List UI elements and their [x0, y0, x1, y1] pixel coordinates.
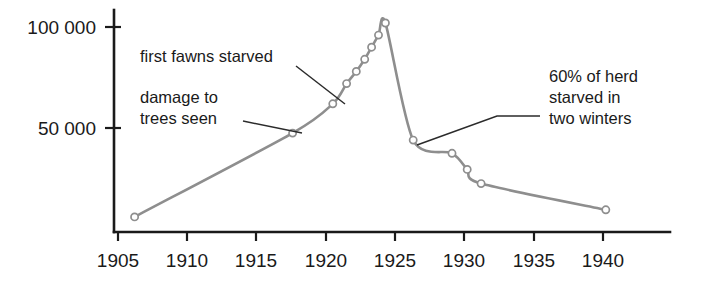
y-tick-label-50000: 50 000 — [38, 118, 96, 139]
data-point-marker — [131, 213, 138, 220]
annotation-sixty-percent-of-herd: 60% of herd starved in two winters — [549, 67, 638, 127]
chart-canvas: 100 000 50 000 1905 1910 1915 1920 1925 … — [0, 0, 702, 286]
annotation-text-herd-line3: two winters — [549, 109, 632, 127]
data-point-marker — [410, 137, 417, 144]
x-tick-label-1915: 1915 — [235, 250, 277, 271]
leader-line-first-fawns — [296, 66, 345, 104]
annotation-text-damage-line1: damage to — [140, 88, 218, 106]
x-tick-label-1930: 1930 — [443, 250, 485, 271]
y-tick-label-100000: 100 000 — [27, 17, 96, 38]
x-tick-label-1920: 1920 — [305, 250, 347, 271]
x-tick-label-1940: 1940 — [582, 250, 624, 271]
data-point-marker — [343, 80, 350, 87]
annotation-damage-to-trees-seen: damage to trees seen — [140, 88, 218, 127]
data-point-marker — [464, 166, 471, 173]
x-tick-label-1905: 1905 — [97, 250, 139, 271]
x-tick-label-1935: 1935 — [513, 250, 555, 271]
data-point-marker — [602, 206, 609, 213]
population-line-chart: 100 000 50 000 1905 1910 1915 1920 1925 … — [0, 0, 702, 286]
data-point-marker — [382, 19, 389, 26]
annotation-text-damage-line2: trees seen — [140, 109, 217, 127]
data-point-marker — [448, 150, 455, 157]
annotation-first-fawns-starved: first fawns starved — [140, 47, 273, 65]
leader-line-damage-trees — [243, 121, 302, 133]
data-point-marker — [329, 100, 336, 107]
data-point-marker — [368, 44, 375, 51]
data-point-marker — [361, 56, 368, 63]
x-tick-label-1910: 1910 — [166, 250, 208, 271]
y-axis-tick-labels: 100 000 50 000 — [27, 17, 96, 139]
data-point-marker — [353, 68, 360, 75]
annotation-text-first-fawns: first fawns starved — [140, 47, 273, 65]
x-axis-tick-labels: 1905 1910 1915 1920 1925 1930 1935 1940 — [97, 250, 624, 271]
x-tick-label-1925: 1925 — [374, 250, 416, 271]
leader-line-sixty-percent — [417, 116, 540, 145]
data-point-marker — [478, 180, 485, 187]
annotation-text-herd-line1: 60% of herd — [549, 67, 638, 85]
annotation-leader-lines — [243, 66, 540, 145]
data-point-marker — [375, 31, 382, 38]
x-tick-marks — [118, 232, 603, 241]
annotation-text-herd-line2: starved in — [549, 88, 621, 106]
